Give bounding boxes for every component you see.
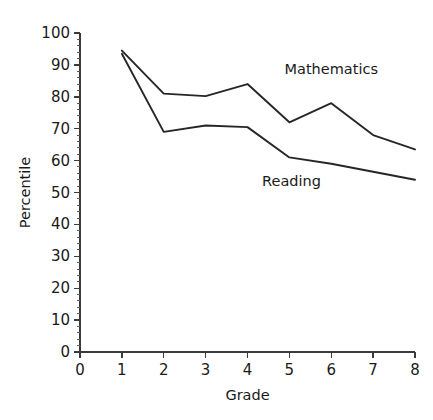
y-tick-label: 30 bbox=[51, 247, 70, 265]
y-tick-label: 90 bbox=[51, 56, 70, 74]
chart-svg: 0102030405060708090100 012345678 Mathema… bbox=[0, 0, 433, 420]
x-tick-label: 8 bbox=[410, 361, 420, 379]
series-label-reading: Reading bbox=[262, 173, 321, 189]
y-tick-label: 10 bbox=[51, 311, 70, 329]
x-axis-major-ticks bbox=[80, 352, 415, 358]
x-tick-label: 5 bbox=[285, 361, 295, 379]
x-axis-title: Grade bbox=[225, 387, 269, 403]
x-axis-tick-labels: 012345678 bbox=[75, 361, 420, 379]
y-tick-label: 60 bbox=[51, 152, 70, 170]
x-tick-label: 7 bbox=[368, 361, 378, 379]
y-axis-major-ticks bbox=[74, 33, 80, 352]
x-axis-group: 012345678 bbox=[75, 352, 420, 379]
x-tick-label: 6 bbox=[326, 361, 336, 379]
x-tick-label: 1 bbox=[117, 361, 127, 379]
y-axis-tick-labels: 0102030405060708090100 bbox=[41, 24, 70, 361]
x-tick-label: 3 bbox=[201, 361, 211, 379]
y-tick-label: 100 bbox=[41, 24, 70, 42]
series-label-mathematics: Mathematics bbox=[285, 61, 378, 77]
y-tick-label: 80 bbox=[51, 88, 70, 106]
x-tick-label: 4 bbox=[243, 361, 253, 379]
x-tick-label: 2 bbox=[159, 361, 169, 379]
percentile-by-grade-chart: 0102030405060708090100 012345678 Mathema… bbox=[0, 0, 433, 420]
y-tick-label: 50 bbox=[51, 184, 70, 202]
x-tick-label: 0 bbox=[75, 361, 85, 379]
y-axis-group: 0102030405060708090100 bbox=[41, 24, 80, 361]
y-tick-label: 70 bbox=[51, 120, 70, 138]
y-tick-label: 20 bbox=[51, 279, 70, 297]
y-axis-title: Percentile bbox=[17, 157, 33, 229]
y-tick-label: 40 bbox=[51, 215, 70, 233]
y-tick-label: 0 bbox=[60, 343, 70, 361]
